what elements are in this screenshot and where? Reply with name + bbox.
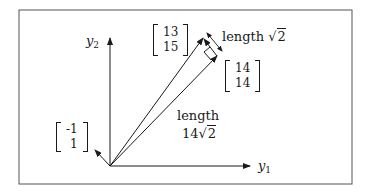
bracket-right bbox=[83, 122, 88, 152]
sqrt-expression: √2 bbox=[199, 127, 217, 140]
length-word: length bbox=[177, 109, 219, 122]
matrix-entry: -1 bbox=[66, 122, 78, 137]
right-angle-marker bbox=[204, 47, 211, 60]
bracket-right bbox=[183, 24, 188, 56]
y2-axis-label: y2 bbox=[86, 34, 99, 50]
length-word: length bbox=[222, 29, 264, 44]
matrix-14-14: 14 14 bbox=[225, 60, 260, 92]
projection-length-label: length 14√2 bbox=[177, 109, 219, 140]
vector-13-15 bbox=[110, 38, 203, 166]
coefficient: 14 bbox=[182, 126, 199, 141]
matrix-entry: 14 bbox=[235, 76, 250, 91]
matrix-entries: 13 15 bbox=[158, 24, 183, 56]
sqrt-expression: √2 bbox=[268, 30, 286, 43]
y1-label-subscript: 1 bbox=[265, 165, 271, 175]
vector-neg1-1 bbox=[95, 150, 110, 166]
y2-label-subscript: 2 bbox=[93, 40, 99, 50]
matrix-entry: 14 bbox=[235, 61, 250, 76]
bracket-right bbox=[255, 60, 260, 92]
length-value: 14√2 bbox=[177, 127, 219, 140]
radicand: 2 bbox=[207, 125, 216, 141]
matrix-entry: 1 bbox=[66, 137, 78, 152]
matrix-entries: 14 14 bbox=[230, 60, 255, 92]
matrix-entry: 13 bbox=[163, 25, 178, 40]
matrix-13-15: 13 15 bbox=[153, 24, 188, 56]
radicand: 2 bbox=[277, 28, 286, 44]
length-double-arrow bbox=[207, 33, 222, 51]
matrix-entry: 15 bbox=[163, 40, 178, 55]
y1-axis-label: y1 bbox=[258, 159, 271, 175]
matrix-neg1-1: -1 1 bbox=[56, 122, 88, 152]
error-length-label: length √2 bbox=[222, 30, 286, 43]
error-segment bbox=[204, 39, 217, 56]
matrix-entries: -1 1 bbox=[61, 122, 83, 152]
